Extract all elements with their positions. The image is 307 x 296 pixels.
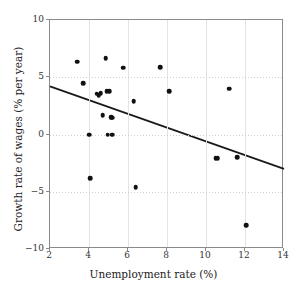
data-point — [235, 155, 240, 160]
gridline-horizontal — [50, 192, 282, 193]
x-tick-label: 6 — [124, 250, 130, 260]
data-point — [132, 99, 137, 104]
gridline-vertical — [128, 20, 129, 247]
y-tick-mark — [46, 76, 49, 77]
x-axis-label: Unemployment rate (%) — [0, 268, 307, 280]
data-point — [158, 65, 163, 70]
y-tick-label: 5 — [16, 71, 44, 81]
data-point — [121, 65, 126, 70]
gridline-horizontal — [50, 77, 282, 78]
gridline-vertical — [245, 20, 246, 247]
data-point — [88, 176, 93, 181]
x-tick-label: 2 — [46, 250, 52, 260]
y-tick-mark — [46, 134, 49, 135]
x-tick-label: 14 — [277, 250, 288, 260]
data-point — [215, 156, 220, 161]
x-tick-label: 4 — [85, 250, 91, 260]
data-point — [75, 59, 80, 64]
scatter-chart: Unemployment rate (%) Growth rate of wag… — [0, 0, 307, 296]
y-tick-mark — [46, 191, 49, 192]
data-point — [110, 116, 115, 121]
data-point — [87, 132, 92, 137]
gridline-vertical — [206, 20, 207, 247]
data-point — [227, 86, 232, 91]
x-tick-label: 12 — [238, 250, 249, 260]
y-axis-label: Growth rate of wages (% per year) — [12, 29, 24, 249]
x-tick-label: 10 — [199, 250, 210, 260]
data-point — [98, 91, 103, 96]
data-point — [81, 81, 86, 86]
y-tick-label: 0 — [16, 129, 44, 139]
gridline-vertical — [167, 20, 168, 247]
y-tick-mark — [46, 19, 49, 20]
y-tick-label: −5 — [16, 186, 44, 196]
plot-area — [49, 19, 283, 248]
y-tick-label: 10 — [16, 14, 44, 24]
gridline-horizontal — [50, 135, 282, 136]
y-tick-mark — [46, 248, 49, 249]
data-point — [107, 89, 112, 94]
x-tick-label: 8 — [163, 250, 169, 260]
data-point — [244, 223, 249, 228]
data-point — [134, 185, 139, 190]
y-tick-label: −10 — [16, 243, 44, 253]
data-point — [167, 89, 172, 94]
data-point — [110, 132, 115, 137]
data-point — [100, 113, 105, 118]
data-point — [103, 56, 108, 61]
